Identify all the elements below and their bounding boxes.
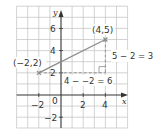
x-axis-label: x bbox=[122, 97, 127, 106]
coordinate-grid-diagram: y x 6 4 2 −2 0 −2 2 4 (−2,2) (4,5) 5 − 2… bbox=[0, 0, 162, 134]
right-angle-marker bbox=[99, 67, 105, 73]
y-tick-neg2: −2 bbox=[44, 113, 57, 123]
horizontal-run-annotation: 4 − −2 = 6 bbox=[64, 76, 112, 86]
x-tick-2: 2 bbox=[80, 100, 86, 110]
point-label-neg2-2: (−2,2) bbox=[13, 58, 42, 68]
x-tick-neg2: −2 bbox=[31, 100, 44, 110]
x-tick-4: 4 bbox=[102, 100, 108, 110]
origin-label: 0 bbox=[52, 96, 58, 106]
y-tick-6: 6 bbox=[50, 24, 56, 34]
vertical-rise-annotation: 5 − 2 = 3 bbox=[112, 51, 153, 61]
point-label-4-5: (4,5) bbox=[92, 25, 113, 35]
y-axis-arrow-icon bbox=[59, 10, 64, 17]
y-axis-label: y bbox=[52, 8, 58, 17]
y-tick-4: 4 bbox=[50, 46, 56, 56]
